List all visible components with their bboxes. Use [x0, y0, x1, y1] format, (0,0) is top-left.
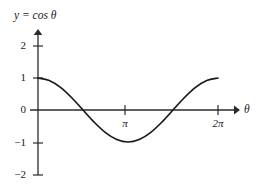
plot-canvas [0, 0, 262, 196]
y-tick-label-0: 0 [8, 104, 26, 115]
x-tick-label-2pi: 2π [205, 118, 231, 129]
cosine-plot-figure: y = cos θ 2 1 0 −1 −2 π 2π θ [0, 0, 262, 196]
y-tick-label-2: 2 [8, 40, 26, 51]
x-tick-label-pi: π [113, 118, 137, 129]
x-axis-name-label: θ [244, 104, 250, 116]
y-tick-label-minus-1: −1 [4, 137, 26, 148]
function-title-label: y = cos θ [14, 10, 56, 22]
y-axis-arrowhead [34, 29, 43, 35]
x-axis-arrowhead [234, 106, 240, 115]
y-tick-label-minus-2: −2 [4, 169, 26, 180]
y-tick-label-1: 1 [8, 72, 26, 83]
